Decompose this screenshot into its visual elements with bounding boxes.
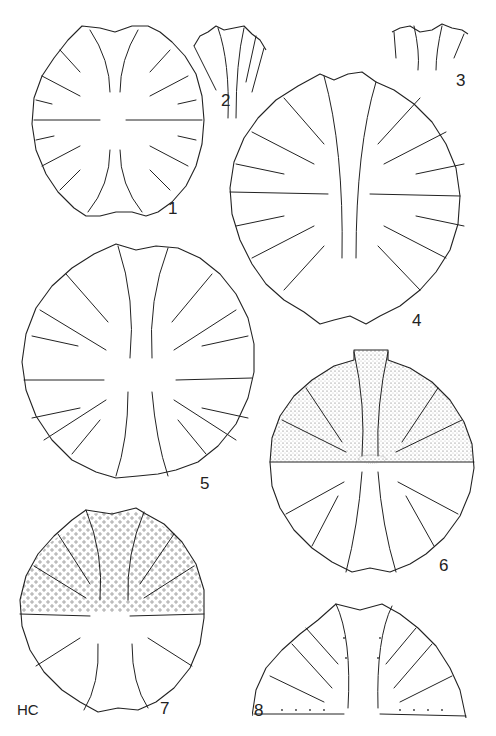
figure-5-label: 5 [200, 475, 209, 492]
figure-7-label: 7 [160, 700, 169, 717]
figure-8-label: 8 [254, 702, 263, 719]
plate: 1 2 3 4 [0, 0, 496, 736]
figure-6-label: 6 [439, 557, 448, 574]
figure-5-drawing [16, 240, 264, 490]
figure-8-drawing [252, 598, 472, 726]
figure-6-drawing [262, 346, 480, 578]
artist-initials: HC [17, 702, 39, 717]
figure-4-label: 4 [412, 312, 421, 329]
figure-1-label: 1 [168, 200, 177, 217]
figure-1-drawing [20, 20, 210, 220]
figure-7-drawing [14, 504, 210, 716]
